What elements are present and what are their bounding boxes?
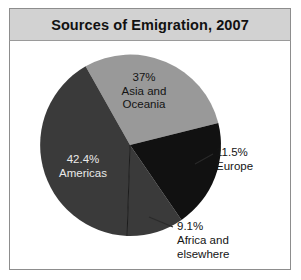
pie-plot-area: 37% Asia and Oceania 42.4% Americas 11.5… bbox=[9, 41, 291, 270]
pie-label-africa-name-2: elsewhere bbox=[177, 247, 229, 261]
chart-title-bar: Sources of Emigration, 2007 bbox=[9, 8, 291, 41]
pie-label-americas-value: 42.4% bbox=[37, 153, 129, 167]
pie-label-africa-and-elsewhere: 9.1% Africa and elsewhere bbox=[177, 219, 229, 261]
pie-label-americas-name: Americas bbox=[37, 167, 129, 181]
pie-label-europe-value: 11.5% bbox=[216, 145, 253, 159]
figure-container: Sources of Emigration, 2007 37% Asia and… bbox=[0, 0, 301, 280]
pie-label-europe-name: Europe bbox=[216, 159, 253, 173]
page-title: Sources of Emigration, 2007 bbox=[51, 17, 249, 33]
pie-label-europe: 11.5% Europe bbox=[216, 145, 253, 173]
pie-label-asia-name-1: Asia and bbox=[101, 85, 187, 99]
pie-label-africa-value: 9.1% bbox=[177, 219, 229, 233]
pie-label-asia-and-oceania: 37% Asia and Oceania bbox=[101, 71, 187, 112]
pie-label-americas: 42.4% Americas bbox=[37, 153, 129, 180]
pie-label-asia-name-2: Oceania bbox=[101, 98, 187, 112]
pie-label-asia-value: 37% bbox=[101, 71, 187, 85]
pie-label-africa-name-1: Africa and bbox=[177, 233, 229, 247]
